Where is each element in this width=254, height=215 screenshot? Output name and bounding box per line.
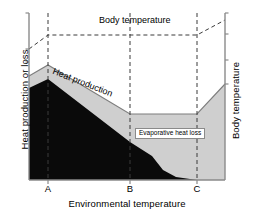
x-tick-label-a: A	[38, 183, 58, 194]
evaporative-heat-loss-label: Evaporative heat loss	[135, 128, 205, 139]
y-axis-left-title: Heat production or loss	[19, 30, 30, 170]
x-tick-label-c: C	[187, 183, 207, 194]
x-axis-title: Environmental temperature	[27, 198, 227, 209]
x-tick-label-b: B	[120, 183, 140, 194]
body-temperature-label: Body temperature	[99, 15, 171, 25]
y-axis-right-title: Body temperature	[230, 31, 241, 171]
thermoregulation-figure: Heat production or loss Body temperature…	[0, 0, 254, 215]
